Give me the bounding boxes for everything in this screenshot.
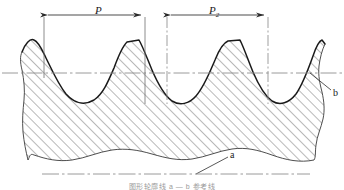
dimension-label-pitch-2-text: P: [209, 4, 216, 16]
reference-label-a: a: [230, 150, 234, 160]
material-body: [21, 40, 326, 162]
dimension-label-pitch-2-sub: 2: [216, 11, 220, 19]
figure-caption: 图形轮廓线 a — b 参考线: [0, 181, 344, 190]
profile-outline: [22, 40, 325, 104]
dimension-label-pitch-2: P2: [209, 5, 219, 19]
leader-line-a: [196, 157, 228, 174]
reference-label-b: b: [333, 88, 338, 98]
dimension-label-pitch-1: P: [95, 5, 102, 19]
technical-drawing-figure: P P2 b a 图形轮廓线 a — b 参考线: [0, 0, 344, 190]
profile-diagram-svg: [0, 0, 344, 190]
dimension-label-pitch-1-text: P: [95, 4, 102, 16]
